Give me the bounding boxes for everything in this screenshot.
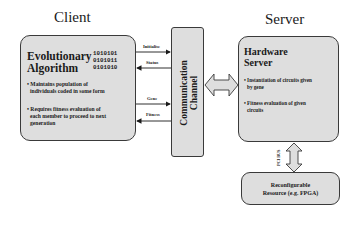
fpga-label: Reconfigurable Resource (e.g. FPGA) bbox=[242, 173, 339, 204]
channel-server-double-arrow bbox=[205, 74, 238, 96]
server-bullet-fitness: • Fitness evaluation of given circuits bbox=[244, 100, 339, 114]
pci-bus-double-arrow bbox=[286, 143, 302, 172]
server-box: Hardware Server • Instantiation of circu… bbox=[238, 36, 339, 142]
pci-bus-label: PCI BUS bbox=[276, 150, 281, 166]
server-bullet-instantiation: • Instantiation of circuits given by gen… bbox=[244, 77, 339, 91]
reconfigurable-resource-box: Reconfigurable Resource (e.g. FPGA) bbox=[241, 172, 340, 205]
server-box-title: Hardware Server bbox=[244, 46, 288, 68]
